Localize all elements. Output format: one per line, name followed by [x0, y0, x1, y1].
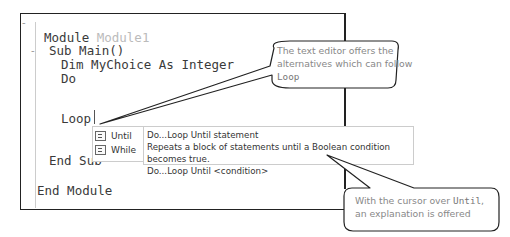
bottom-callout-text: With the cursor over Until, an explanati… [355, 194, 484, 220]
bottom-callout-line2: an explanation is offered [355, 207, 484, 220]
top-callout-code: Loop [277, 70, 412, 83]
bottom-callout-line1: With the cursor over Until, [355, 194, 484, 207]
bottom-callout-code: Until [453, 195, 481, 206]
bottom-callout-prefix: With the cursor over [355, 195, 453, 206]
bottom-callout-suffix: , [481, 195, 484, 206]
top-callout-text: The text editor offers the alternatives … [277, 44, 412, 83]
top-callout-line1: The text editor offers the [277, 44, 412, 57]
top-callout-line2: alternatives which can follow [277, 57, 412, 70]
